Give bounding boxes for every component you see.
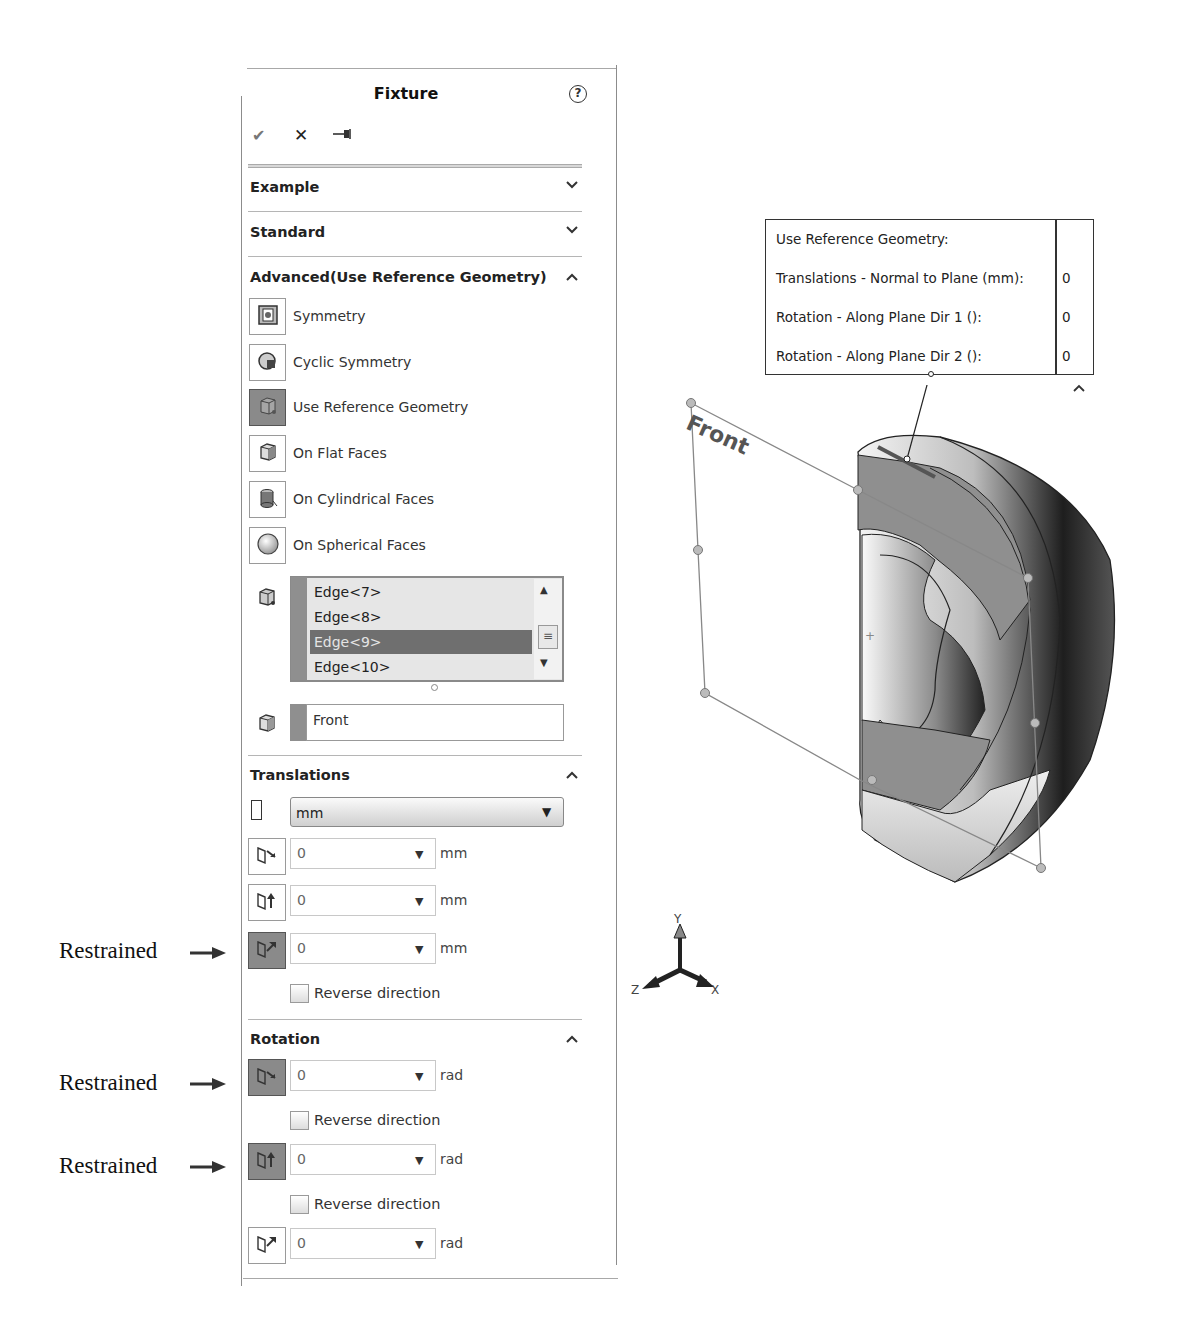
- help-icon[interactable]: ?: [569, 85, 587, 103]
- unit-label: mm: [440, 845, 467, 861]
- callout-divider: [1055, 219, 1057, 375]
- reference-plane-field[interactable]: Front: [306, 704, 564, 741]
- chevron-down-icon[interactable]: [564, 223, 580, 238]
- scrollbar-thumb[interactable]: ≡: [538, 625, 558, 649]
- section-advanced-header[interactable]: Advanced(Use Reference Geometry): [250, 269, 547, 285]
- reference-accent-bar: [290, 704, 306, 741]
- cancel-x-icon[interactable]: ✕: [294, 125, 308, 145]
- reference-geometry-icon: [257, 395, 279, 421]
- callout-row-label: Translations - Normal to Plane (mm):: [776, 270, 1024, 286]
- units-dropdown[interactable]: mm: [290, 797, 564, 827]
- rotation-dir1-button[interactable]: [248, 1059, 286, 1096]
- panel-right-border: [616, 65, 617, 1265]
- reverse-direction-checkbox[interactable]: [290, 1111, 309, 1130]
- list-item[interactable]: Edge<8>: [310, 605, 532, 629]
- section-standard-header[interactable]: Standard: [250, 224, 325, 240]
- section-divider: [248, 256, 582, 257]
- model-viewport[interactable]: +: [660, 385, 1130, 905]
- reverse-direction-label[interactable]: Reverse direction: [314, 985, 440, 1001]
- dropdown-caret-icon[interactable]: ▼: [415, 1070, 423, 1083]
- translation-dir1-button[interactable]: [248, 838, 286, 875]
- symmetry-button[interactable]: [249, 298, 286, 335]
- listbox-resize-handle[interactable]: [431, 684, 438, 691]
- annotation-restrained: Restrained: [59, 1070, 157, 1096]
- reverse-direction-checkbox[interactable]: [290, 984, 309, 1003]
- edge-selection-icon: [256, 586, 278, 612]
- listbox-accent-bar: [291, 577, 307, 680]
- ok-check-icon[interactable]: ✔: [252, 126, 265, 145]
- scroll-up-arrow-icon[interactable]: ▲: [540, 584, 548, 595]
- plane-normal-icon: [255, 1233, 279, 1259]
- dropdown-caret-icon[interactable]: ▼: [415, 848, 423, 861]
- use-reference-geometry-button[interactable]: [249, 389, 286, 426]
- cyclic-symmetry-button[interactable]: [249, 344, 286, 381]
- on-spherical-faces-label[interactable]: On Spherical Faces: [293, 537, 426, 553]
- symmetry-label[interactable]: Symmetry: [293, 308, 366, 324]
- reverse-direction-checkbox[interactable]: [290, 1195, 309, 1214]
- chevron-down-icon[interactable]: [564, 178, 580, 193]
- callout-row-label: Rotation - Along Plane Dir 1 ():: [776, 309, 982, 325]
- panel-top-border: [247, 68, 617, 69]
- translation-dir2-button[interactable]: [248, 884, 286, 921]
- translation-normal-button[interactable]: [248, 932, 286, 969]
- on-flat-faces-label[interactable]: On Flat Faces: [293, 445, 387, 461]
- on-flat-faces-button[interactable]: [249, 435, 286, 472]
- axis-label-z: Z: [631, 983, 639, 997]
- callout-row-value: 0: [1062, 270, 1071, 286]
- on-spherical-faces-button[interactable]: [249, 527, 286, 564]
- pushpin-icon[interactable]: [333, 126, 353, 144]
- cyclic-symmetry-icon: [257, 350, 279, 376]
- unit-label: rad: [440, 1235, 463, 1251]
- dropdown-caret-icon[interactable]: ▼: [542, 805, 551, 819]
- plane-direction-2-icon: [255, 890, 279, 916]
- callout-row-label: Rotation - Along Plane Dir 2 ():: [776, 348, 982, 364]
- rotation-dir2-button[interactable]: [248, 1143, 286, 1180]
- dropdown-caret-icon[interactable]: ▼: [415, 1154, 423, 1167]
- reverse-direction-label[interactable]: Reverse direction: [314, 1196, 440, 1212]
- spherical-faces-icon: [256, 532, 280, 560]
- plane-direction-1-icon: [255, 1065, 279, 1091]
- plane-direction-1-icon: [255, 844, 279, 870]
- annotation-restrained: Restrained: [59, 938, 157, 964]
- section-translations-header[interactable]: Translations: [250, 767, 350, 783]
- callout-row-value: 0: [1062, 309, 1071, 325]
- reverse-direction-label[interactable]: Reverse direction: [314, 1112, 440, 1128]
- dropdown-caret-icon[interactable]: ▼: [415, 895, 423, 908]
- unit-label: mm: [440, 892, 467, 908]
- cyclic-symmetry-label[interactable]: Cyclic Symmetry: [293, 354, 411, 370]
- on-cylindrical-faces-label[interactable]: On Cylindrical Faces: [293, 491, 434, 507]
- dropdown-caret-icon[interactable]: ▼: [415, 943, 423, 956]
- chevron-up-icon[interactable]: [564, 270, 580, 285]
- svg-text:+: +: [865, 629, 875, 643]
- on-cylindrical-faces-button[interactable]: [249, 481, 286, 518]
- arrow-right-icon: [190, 1076, 226, 1090]
- section-rotation-header[interactable]: Rotation: [250, 1031, 320, 1047]
- face-plane-icon: [256, 712, 278, 738]
- list-item-selected[interactable]: Edge<9>: [310, 630, 532, 654]
- panel-left-border: [241, 96, 242, 1286]
- section-example-header[interactable]: Example: [250, 179, 319, 195]
- arrow-right-icon: [190, 1159, 226, 1173]
- section-divider: [248, 211, 582, 212]
- panel-bottom-border: [243, 1278, 618, 1279]
- use-reference-geometry-label[interactable]: Use Reference Geometry: [293, 399, 468, 415]
- unit-label: rad: [440, 1067, 463, 1083]
- coordinate-triad-icon: [628, 912, 738, 992]
- callout-row-value: 0: [1062, 348, 1071, 364]
- axis-label-x: X: [711, 983, 719, 997]
- plane-normal-icon: [255, 938, 279, 964]
- section-divider: [248, 1019, 582, 1020]
- arrow-right-icon: [190, 945, 226, 959]
- unit-label: rad: [440, 1151, 463, 1167]
- scroll-down-arrow-icon[interactable]: ▼: [540, 657, 548, 668]
- chevron-up-icon[interactable]: [564, 1032, 580, 1047]
- list-item[interactable]: Edge<10>: [310, 655, 532, 679]
- toolbar-divider: [248, 164, 582, 168]
- dropdown-caret-icon[interactable]: ▼: [415, 1238, 423, 1251]
- section-divider: [248, 755, 582, 756]
- chevron-up-icon[interactable]: [564, 768, 580, 783]
- callout-collapse-chevron-icon[interactable]: [1073, 380, 1085, 395]
- rotation-normal-button[interactable]: [248, 1227, 286, 1264]
- list-item[interactable]: Edge<7>: [310, 580, 532, 604]
- callout-row-label: Use Reference Geometry:: [776, 231, 949, 247]
